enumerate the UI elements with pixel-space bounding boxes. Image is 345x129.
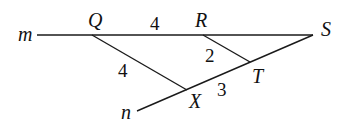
length-qx: 4: [118, 60, 128, 81]
length-xt: 3: [217, 79, 227, 100]
label-n: n: [121, 101, 131, 123]
geometry-diagram: m Q R S T X n 4 4 2 3: [0, 0, 345, 129]
label-x: X: [188, 90, 202, 112]
label-r: R: [194, 9, 207, 31]
label-t: T: [252, 65, 265, 87]
label-q: Q: [88, 9, 103, 31]
label-m: m: [18, 23, 32, 45]
label-s: S: [321, 18, 331, 40]
length-qr: 4: [150, 13, 160, 34]
segment-qx: [92, 35, 187, 90]
length-rt: 2: [205, 45, 215, 66]
